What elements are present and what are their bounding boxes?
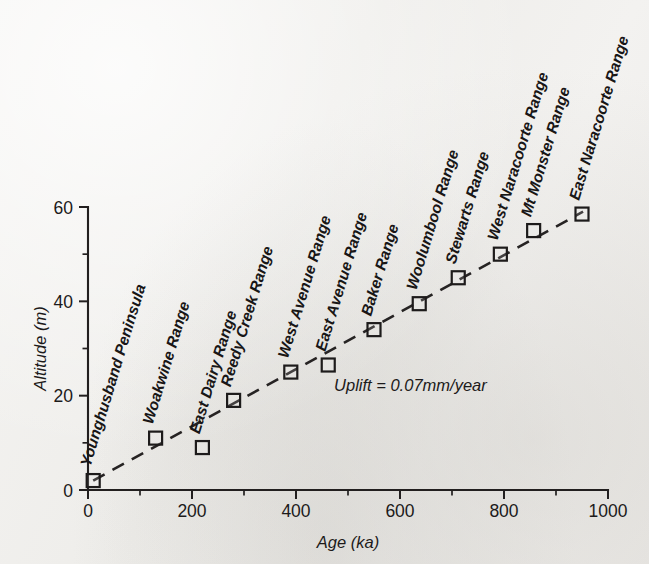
data-point-marker[interactable]	[87, 474, 100, 487]
y-axis-title: Altitude (m)	[31, 306, 49, 391]
data-point-marker[interactable]	[527, 224, 540, 237]
data-point-marker[interactable]	[452, 271, 465, 284]
x-tick-label: 400	[281, 501, 310, 521]
data-point-marker[interactable]	[494, 248, 507, 261]
data-point-marker[interactable]	[413, 297, 426, 310]
uplift-rate-annotation: Uplift = 0.07mm/year	[334, 376, 488, 394]
data-point-marker[interactable]	[576, 208, 589, 221]
x-tick-label: 0	[83, 501, 93, 521]
data-point-marker[interactable]	[322, 359, 335, 372]
data-point-marker[interactable]	[368, 323, 381, 336]
y-tick-label: 40	[54, 292, 74, 312]
data-point-marker[interactable]	[149, 432, 162, 445]
plot-canvas: 020040060080010000204060Altitude (m)Age …	[0, 0, 649, 564]
x-tick-label: 1000	[589, 501, 628, 521]
uplift-scatter-chart: 020040060080010000204060Altitude (m)Age …	[0, 0, 649, 564]
data-point-marker[interactable]	[284, 366, 297, 379]
x-axis-title: Age (ka)	[316, 533, 379, 551]
data-point-label: Woakwine Range	[139, 299, 193, 426]
data-point-label: Woolumbool Range	[403, 147, 462, 291]
data-point-label: Baker Range	[358, 222, 402, 318]
x-tick-label: 600	[385, 501, 414, 521]
data-point-marker[interactable]	[227, 394, 240, 407]
y-tick-label: 60	[54, 198, 74, 218]
data-point-marker[interactable]	[196, 441, 209, 454]
x-tick-label: 200	[177, 501, 206, 521]
y-tick-label: 20	[54, 386, 74, 406]
y-tick-label: 0	[63, 481, 73, 501]
data-point-label: East Naracoorte Range	[566, 34, 632, 202]
x-tick-label: 800	[489, 501, 518, 521]
